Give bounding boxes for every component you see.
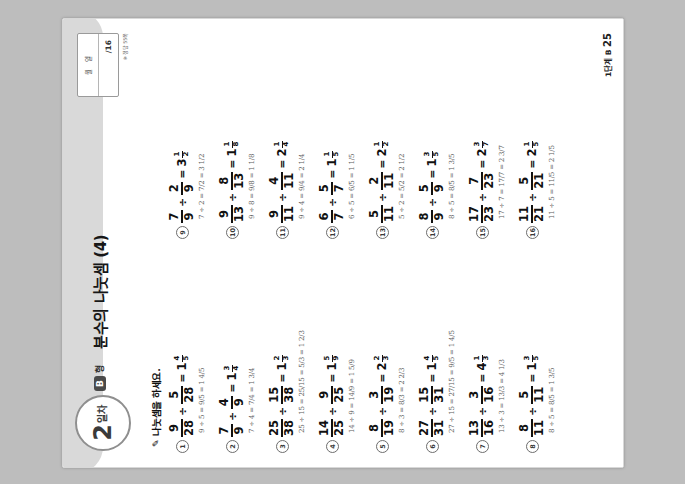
worksheet-page-rotated: 2 일차 B 형 분수의 나눗셈 (4) 월 일 /16 ※ 정답 <box>63 19 623 467</box>
fraction: 319 <box>369 386 395 404</box>
denominator: 9 <box>434 212 446 222</box>
answer-whole-part: 2 <box>275 149 289 157</box>
fraction: 928 <box>169 419 195 437</box>
level-chip-letter: B <box>94 376 106 391</box>
equals-sign: = <box>176 374 189 383</box>
numerator: 8 <box>369 423 381 433</box>
fraction: 811 <box>519 419 545 437</box>
numerator: 8 <box>219 176 231 186</box>
problem-number: 14 <box>426 226 439 239</box>
answer-mixed-number: 223 <box>374 355 390 371</box>
equals-sign: = <box>476 160 489 169</box>
numerator: 4 <box>269 176 281 186</box>
numerator: 1 <box>274 142 281 147</box>
problem-number: 13 <box>376 226 389 239</box>
numerator: 27 <box>419 419 431 437</box>
numerator: 5 <box>419 183 431 193</box>
numerator: 13 <box>469 419 481 437</box>
worked-solution: 11 ÷ 5 = 11/5 = 2 1/5 <box>548 33 556 219</box>
answer-mixed-number: 159 <box>324 355 340 371</box>
numerator: 11 <box>519 205 531 223</box>
answer-whole-part: 4 <box>475 363 489 371</box>
problem-item: 32538÷1538=12325 ÷ 15 = 25/15 = 5/3 = 1 … <box>267 247 317 453</box>
answer-whole-part: 2 <box>375 363 389 371</box>
score-value: /16 <box>104 40 113 53</box>
fraction: 2731 <box>419 419 445 437</box>
problem-number: 8 <box>526 440 539 453</box>
numerator: 15 <box>269 386 281 404</box>
fraction: 29 <box>169 182 195 195</box>
divide-operator: ÷ <box>326 198 339 207</box>
fraction-small: 12 <box>374 141 390 148</box>
denominator: 23 <box>484 205 496 223</box>
fraction-small: 35 <box>424 151 440 158</box>
day-badge-number: 2 <box>91 424 115 441</box>
level-chip-word: 형 <box>93 365 106 373</box>
divide-operator: ÷ <box>476 193 489 202</box>
equals-sign: = <box>476 374 489 383</box>
fraction: 79 <box>219 424 245 437</box>
problem-number: 7 <box>476 440 489 453</box>
numerator: 2 <box>369 176 381 186</box>
problem-item: 1928÷528=1459 ÷ 5 = 9/5 = 1 4/5 <box>167 247 217 453</box>
numerator: 1 <box>474 356 481 361</box>
numerator: 25 <box>269 419 281 437</box>
denominator: 21 <box>534 205 546 223</box>
fraction-small: 37 <box>474 141 490 148</box>
numerator: 4 <box>219 397 231 407</box>
numerator: 1 <box>524 142 531 147</box>
day-badge: 2 일차 <box>75 395 131 451</box>
fraction: 211 <box>369 172 395 190</box>
instruction-text: 나눗셈을 하세요. <box>149 369 163 436</box>
problem-number: 11 <box>276 226 289 239</box>
day-badge-suffix: 일차 <box>98 405 109 423</box>
problem-number: 10 <box>226 226 239 239</box>
denominator: 2 <box>383 142 390 147</box>
problem-number: 1 <box>176 440 189 453</box>
divide-operator: ÷ <box>276 193 289 202</box>
equation: 2538÷1538=123 <box>267 247 297 437</box>
denominator: 11 <box>384 205 396 223</box>
fraction: 57 <box>319 182 345 195</box>
problem-number: 5 <box>376 440 389 453</box>
numerator: 5 <box>519 176 531 186</box>
fraction: 89 <box>419 210 445 223</box>
problem-number: 12 <box>326 226 339 239</box>
numerator: 4 <box>424 356 431 361</box>
problem-item: 279÷49=1347 ÷ 4 = 7/4 = 1 3/4 <box>217 247 267 453</box>
answer-whole-part: 1 <box>525 363 539 371</box>
pencil-icon: ✎ <box>151 440 161 447</box>
denominator: 28 <box>184 386 196 404</box>
problem-item: 151723÷723=23717 ÷ 7 = 17/7 = 2 3/7 <box>467 33 517 239</box>
divide-operator: ÷ <box>526 193 539 202</box>
fraction: 819 <box>369 419 395 437</box>
answer-mixed-number: 115 <box>324 151 340 167</box>
denominator: 9 <box>333 356 340 361</box>
denominator: 19 <box>384 386 396 404</box>
fraction: 1531 <box>419 386 445 404</box>
page-title: 분수의 나눗셈 (4) <box>89 235 110 349</box>
fraction-small: 18 <box>224 141 240 148</box>
denominator: 11 <box>284 172 296 190</box>
worked-solution: 8 ÷ 5 = 8/5 = 1 3/5 <box>448 33 456 219</box>
divide-operator: ÷ <box>226 412 239 421</box>
fraction-small: 23 <box>374 355 390 362</box>
denominator: 2 <box>183 152 190 157</box>
equals-sign: = <box>376 160 389 169</box>
worked-solution: 9 ÷ 4 = 9/4 = 2 1/4 <box>298 33 306 219</box>
fraction-small: 13 <box>474 355 490 362</box>
equals-sign: = <box>526 160 539 169</box>
equation: 819÷319=223 <box>367 247 397 437</box>
numerator: 1 <box>174 152 181 157</box>
fraction: 913 <box>219 205 245 223</box>
numerator: 9 <box>219 209 231 219</box>
problem-item: 161121÷521=21511 ÷ 5 = 11/5 = 2 1/5 <box>517 33 567 239</box>
divide-operator: ÷ <box>226 193 239 202</box>
problem-column-right: 979÷29=3127 ÷ 2 = 7/2 = 3 1/210913÷813=1… <box>167 33 567 239</box>
problem-number: 2 <box>226 440 239 453</box>
denominator: 11 <box>284 205 296 223</box>
divide-operator: ÷ <box>326 407 339 416</box>
numerator: 15 <box>419 386 431 404</box>
numerator: 3 <box>524 356 531 361</box>
numerator: 3 <box>469 390 481 400</box>
